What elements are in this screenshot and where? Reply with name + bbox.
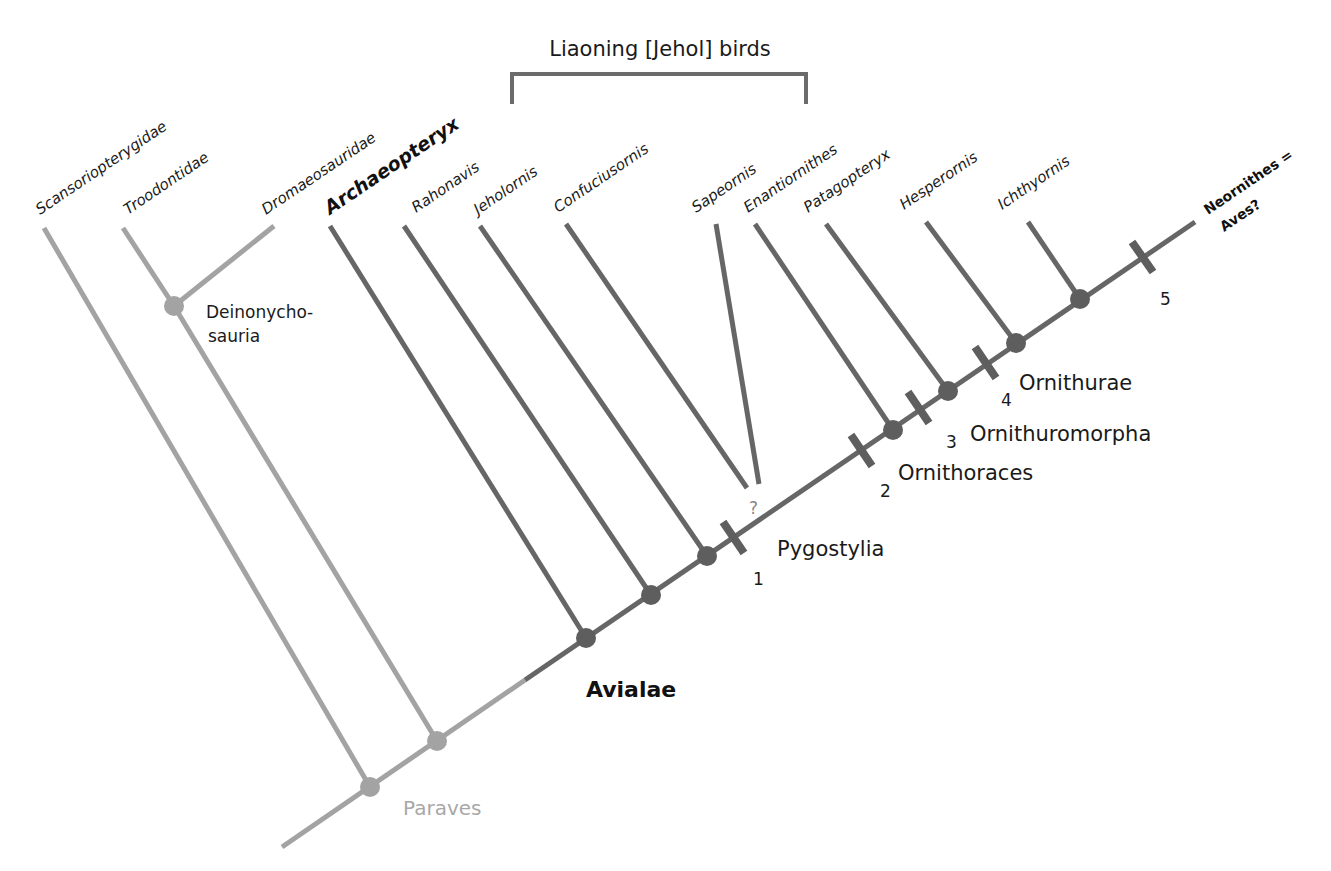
branch-archaeopteryx	[330, 226, 586, 638]
clade-label-avialae: Avialae	[586, 677, 676, 702]
taxon-label-ichthyornis: Ichthyornis	[994, 152, 1073, 214]
spine-basal	[282, 680, 525, 847]
node-hesperornis	[1006, 333, 1026, 353]
clade-label-deinonychosauria-1: Deinonycho-	[206, 302, 313, 322]
clade-label-ornithoraces: Ornithoraces	[898, 461, 1033, 485]
marker-bar-1	[723, 522, 744, 553]
node-rahonavis	[641, 585, 661, 605]
node-ornithoraces	[883, 420, 903, 440]
marker-number-2: 2	[880, 481, 891, 501]
node-ornithuromorpha	[938, 381, 958, 401]
node-avialae	[576, 628, 596, 648]
taxon-label-hesperornis: Hesperornis	[896, 148, 981, 213]
taxon-label-rahonavis: Rahonavis	[408, 158, 483, 217]
marker-number-4: 4	[1001, 390, 1012, 410]
clade-label-ornithuromorpha: Ornithuromorpha	[970, 422, 1151, 446]
cladogram: Liaoning [Jehol] birds ? Scansoriopteryg…	[0, 0, 1331, 871]
jehol-bracket: Liaoning [Jehol] birds	[512, 37, 806, 104]
branch-troodontidae	[123, 228, 174, 306]
node-eumaniraptora	[427, 731, 447, 751]
branch-dromaeosauridae	[174, 226, 274, 306]
branch-patagopteryx	[826, 224, 948, 391]
node-jeholornis	[697, 546, 717, 566]
marker-number-1: 1	[753, 569, 764, 589]
taxon-label-troodontidae: Troodontidae	[120, 148, 212, 218]
node-deinonychosauria	[164, 296, 184, 316]
node-paraves	[360, 777, 380, 797]
marker-number-5: 5	[1160, 289, 1171, 309]
clade-label-ornithurae: Ornithurae	[1019, 371, 1132, 395]
uncertain-mark: ?	[749, 498, 758, 518]
jehol-bracket-label: Liaoning [Jehol] birds	[549, 37, 771, 61]
marker-bar-5	[1132, 242, 1153, 272]
branch-confuciusornis	[566, 224, 747, 488]
marker-bar-2	[851, 435, 872, 466]
clade-label-deinonychosauria-2: sauria	[208, 326, 260, 346]
node-ichthyornis	[1070, 289, 1090, 309]
branch-hesperornis	[926, 222, 1016, 343]
branch-ichthyornis	[1028, 222, 1080, 299]
clade-label-pygostylia: Pygostylia	[777, 537, 884, 561]
branch-enantiornithes	[755, 224, 893, 430]
marker-number-3: 3	[946, 432, 957, 452]
taxon-label-confuciusornis: Confuciusornis	[550, 139, 652, 216]
clade-label-paraves: Paraves	[403, 796, 481, 820]
branch-sapeornis	[716, 224, 759, 484]
